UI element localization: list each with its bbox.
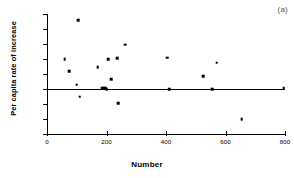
- y-axis-title: Per capita rate of increase: [9, 4, 18, 134]
- x-tick-label: 800: [271, 139, 294, 145]
- data-point: [282, 87, 285, 90]
- data-point: [124, 43, 127, 46]
- data-point: [110, 78, 113, 81]
- data-point: [77, 19, 80, 22]
- data-point: [78, 95, 81, 98]
- data-point: [116, 57, 119, 60]
- data-point: [96, 66, 99, 69]
- x-tick-label: 200: [93, 139, 121, 145]
- x-tick-label: 600: [212, 139, 240, 145]
- data-point: [241, 118, 244, 121]
- x-tick: [285, 131, 286, 136]
- data-point: [166, 56, 169, 59]
- scatter-chart-figure: (a) 0.500.400.300.200.100.00-0.10-0.20-0…: [0, 0, 294, 178]
- data-point: [105, 88, 108, 91]
- data-point: [68, 70, 71, 73]
- data-point: [107, 58, 110, 61]
- panel-label: (a): [278, 5, 288, 14]
- data-point: [64, 58, 67, 61]
- data-point: [211, 88, 214, 91]
- data-point: [202, 75, 205, 78]
- x-axis-title: Number: [0, 160, 294, 169]
- data-point: [75, 83, 78, 86]
- x-tick-label: 0: [33, 139, 61, 145]
- plot-area: [47, 14, 285, 134]
- x-tick-label: 400: [152, 139, 180, 145]
- data-point: [168, 88, 171, 91]
- data-point: [117, 102, 120, 105]
- data-point: [215, 61, 218, 64]
